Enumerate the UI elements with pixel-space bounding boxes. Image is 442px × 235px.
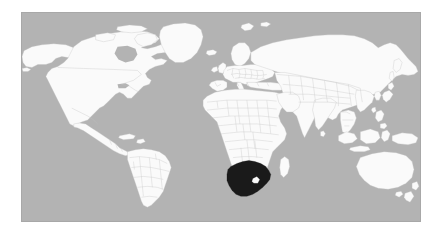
world-locator-map-figure <box>0 0 442 235</box>
map-frame <box>21 12 421 222</box>
world-map-svg <box>22 13 420 221</box>
